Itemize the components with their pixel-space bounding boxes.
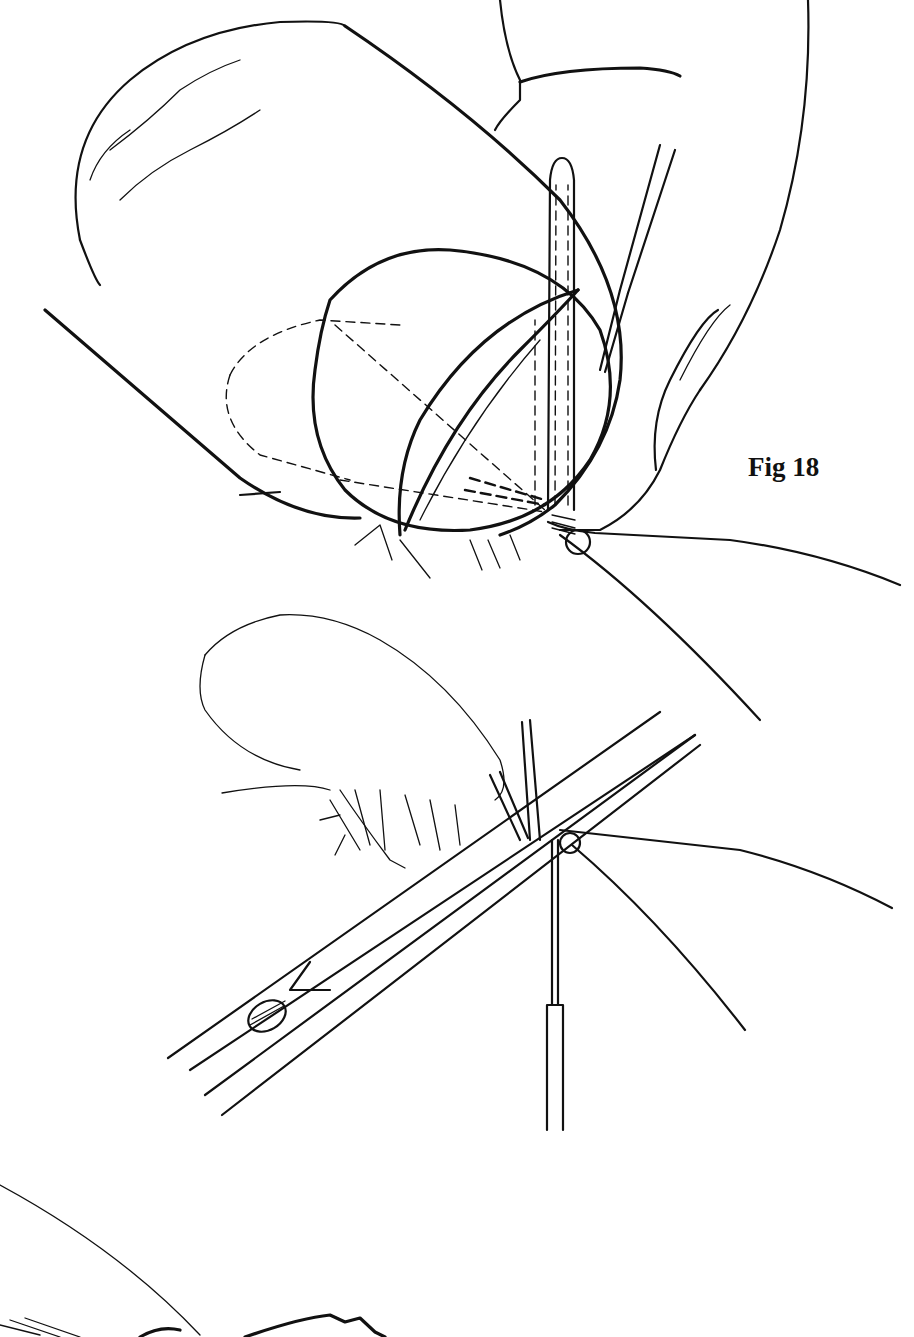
- wing-bottom: [0, 1185, 385, 1337]
- finger-right: [495, 0, 808, 530]
- hook-middle: [560, 830, 892, 1030]
- bobbin-tube-middle: [547, 840, 563, 1130]
- finger-middle: [200, 615, 504, 800]
- thumbnail: [313, 250, 610, 531]
- fig18-illustration: [0, 0, 914, 1337]
- trimmed-fibers: [222, 786, 460, 868]
- thread-loop: [465, 158, 574, 510]
- wing-fibers: [399, 290, 578, 535]
- scissors: [168, 712, 700, 1115]
- hook-and-wraps: [548, 515, 900, 720]
- hidden-finger-outline: [226, 320, 545, 512]
- bobbin-tube-top: [600, 145, 675, 372]
- figure-caption: Fig 18: [748, 452, 819, 483]
- fiber-tips-top: [240, 492, 520, 578]
- thread-strands-middle: [490, 720, 540, 840]
